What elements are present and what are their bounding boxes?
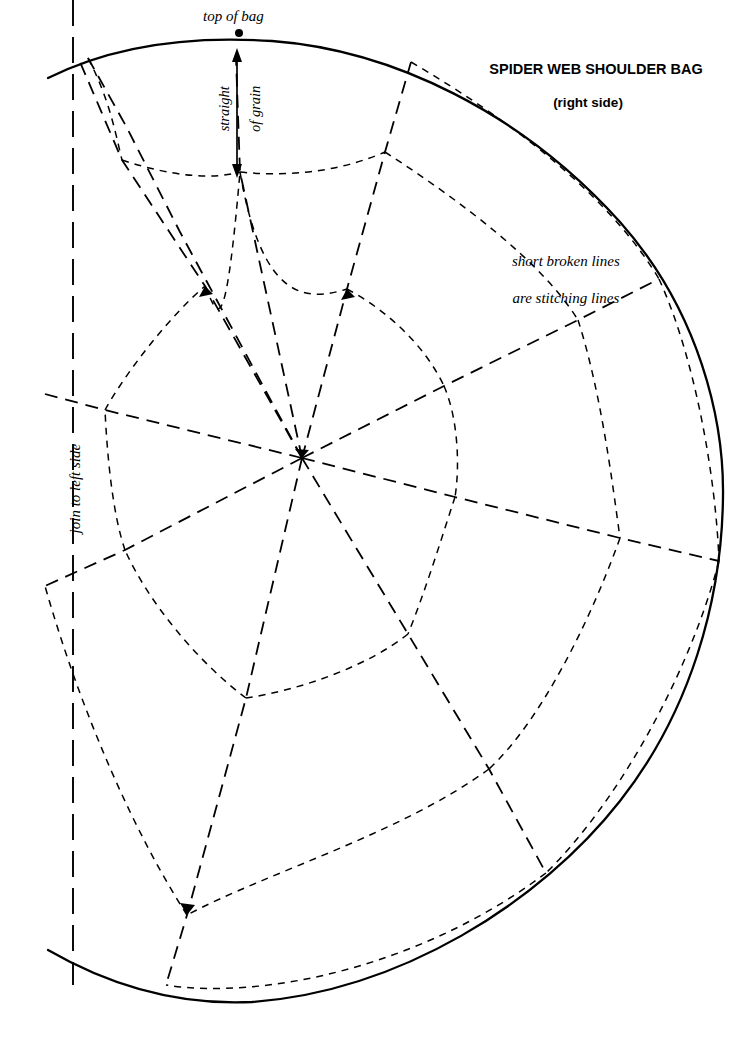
pattern-drawing xyxy=(0,0,747,1039)
label-straight-of-grain: straight of grain xyxy=(202,56,278,176)
spoke-east xyxy=(302,458,719,561)
web-ring2-seg-ese-s xyxy=(187,769,489,915)
web-ring1-seg-nne-ene xyxy=(347,289,444,386)
top-of-bag-marker-dot xyxy=(235,29,243,37)
label-top-of-bag: top of bag xyxy=(203,8,264,25)
web-ring3-seg-ese-s xyxy=(166,873,546,989)
web-ring2-seg-s-wsw xyxy=(45,586,187,915)
stitching-note-line-2: are stitching lines xyxy=(512,290,619,306)
pattern-sheet: top of bag SPIDER WEB SHOULDER BAG (righ… xyxy=(0,0,747,1039)
label-stitching-note: short broken lines are stitching lines xyxy=(497,233,620,327)
web-ring1-seg-ese-s xyxy=(246,634,408,698)
page-title: SPIDER WEB SHOULDER BAG (right side) xyxy=(473,44,703,144)
spoke-north-northeast xyxy=(302,62,411,458)
label-join-to-left-side: join to left side xyxy=(67,419,84,559)
spoke-east-southeast xyxy=(302,458,546,873)
web-ring3-seg-nw-wnw xyxy=(88,58,122,160)
page-title-subtitle: (right side) xyxy=(473,95,703,111)
web-ring-outer-group xyxy=(88,58,719,989)
web-ring1-seg-e-ese xyxy=(408,497,455,634)
web-ring-inner-group xyxy=(105,172,457,698)
web-ring1-seg-wsw-w xyxy=(105,410,125,550)
web-ring3-seg-ene-e xyxy=(659,279,719,561)
web-ring3-seg-e-ese xyxy=(546,561,719,873)
stitching-note-line-1: short broken lines xyxy=(512,253,620,269)
straight-of-grain-line-1: straight xyxy=(216,86,232,131)
web-ring2-seg-e-ese xyxy=(489,538,620,769)
web-spokes-group xyxy=(45,58,719,985)
stitch-node-arrowheads xyxy=(180,286,355,915)
web-ring2-seg-ene-e xyxy=(578,320,620,538)
web-ring1-seg-w-wnw xyxy=(105,286,205,410)
piece-outline-cut-line xyxy=(48,39,723,1002)
straight-of-grain-line-2: of grain xyxy=(247,86,263,132)
web-ring1-seg-n-nne xyxy=(240,172,347,294)
web-ring1-seg-ene-e xyxy=(444,386,457,497)
page-title-main: SPIDER WEB SHOULDER BAG xyxy=(489,61,703,77)
web-ring1-seg-s-wsw xyxy=(125,550,246,698)
